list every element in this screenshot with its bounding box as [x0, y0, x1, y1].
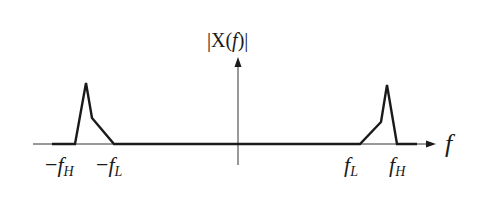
frequency-axis-arrow-icon — [426, 141, 436, 148]
spectrum-title: |X(f)| — [207, 29, 248, 52]
spectrum-diagram: |X(f)| f −fH −fL fL fH — [0, 0, 480, 200]
tick-label-neg-fL: −fL — [96, 152, 123, 179]
spectrum-curve — [52, 83, 417, 144]
frequency-axis-label: f — [445, 129, 456, 158]
tick-label-fH: fH — [389, 152, 406, 179]
magnitude-axis-arrow-icon — [235, 57, 242, 67]
tick-label-fL: fL — [344, 152, 358, 179]
tick-label-neg-fH: −fH — [45, 152, 75, 179]
